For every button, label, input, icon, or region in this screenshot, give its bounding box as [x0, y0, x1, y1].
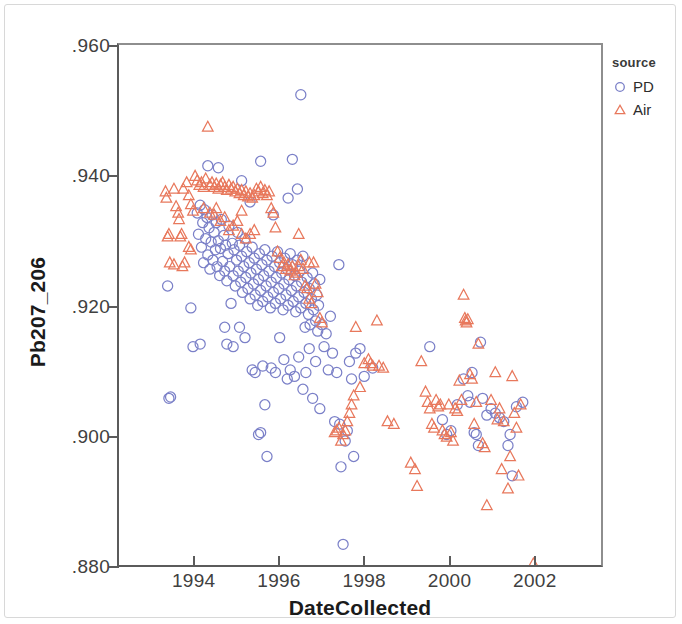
data-point	[437, 415, 447, 425]
series-pd	[163, 90, 528, 550]
legend-entries: PDAir	[612, 78, 678, 118]
data-point	[256, 428, 266, 438]
data-point	[283, 193, 293, 203]
y-tick-label: .940	[72, 165, 110, 187]
triangle-marker-icon	[612, 102, 628, 118]
data-point	[471, 429, 481, 439]
data-point	[507, 371, 518, 381]
data-point	[202, 121, 213, 131]
data-point	[496, 464, 507, 474]
data-point	[294, 352, 304, 362]
y-tick-label: .900	[72, 426, 110, 448]
x-tick-label: 1994	[172, 570, 215, 592]
data-point	[346, 399, 357, 409]
data-point	[420, 386, 431, 396]
data-point	[319, 342, 329, 352]
data-point	[227, 238, 237, 248]
data-point	[236, 205, 247, 215]
data-point	[458, 289, 469, 299]
data-point	[164, 257, 175, 267]
data-point	[203, 161, 213, 171]
data-point	[350, 322, 361, 332]
data-point	[311, 356, 321, 366]
data-point	[247, 365, 257, 375]
data-point	[183, 190, 194, 200]
x-tick-mark	[278, 556, 280, 566]
data-point	[505, 429, 515, 439]
data-point	[412, 480, 423, 490]
data-point	[346, 374, 356, 384]
y-axis-tick-labels: .880.900.920.940.960	[48, 0, 110, 624]
data-point	[336, 462, 346, 472]
data-point	[503, 483, 514, 493]
legend-label: Air	[633, 101, 651, 118]
data-point	[425, 342, 435, 352]
x-tick-label: 2002	[513, 570, 556, 592]
y-axis-title: Pb207_206	[26, 212, 50, 412]
data-point	[199, 258, 209, 268]
x-tick-label: 2000	[428, 570, 471, 592]
data-point	[260, 400, 270, 410]
data-point	[298, 384, 308, 394]
legend-label: PD	[633, 78, 654, 95]
data-point	[256, 156, 266, 166]
data-point	[315, 404, 325, 414]
data-point	[213, 163, 223, 173]
data-point	[275, 333, 285, 343]
plot-area	[117, 43, 603, 567]
data-points-layer	[119, 45, 601, 565]
data-point	[163, 281, 173, 291]
data-point	[349, 451, 359, 461]
data-point	[359, 371, 369, 381]
x-tick-mark	[534, 556, 536, 566]
x-axis-title: DateCollected	[117, 596, 603, 620]
data-point	[304, 344, 314, 354]
data-point	[270, 222, 281, 232]
data-point	[222, 339, 232, 349]
legend-item-pd[interactable]: PD	[612, 78, 678, 95]
x-tick-label: 1998	[343, 570, 386, 592]
data-point	[220, 322, 230, 332]
x-tick-mark	[449, 556, 451, 566]
x-tick-mark	[193, 556, 195, 566]
y-tick-label: .920	[72, 296, 110, 318]
data-point	[301, 367, 311, 377]
data-point	[416, 356, 427, 366]
circle-marker-icon	[612, 79, 628, 95]
data-point	[292, 184, 302, 194]
data-point	[169, 183, 180, 193]
y-tick-mark	[109, 175, 119, 177]
data-point	[193, 229, 203, 239]
data-point	[228, 342, 238, 352]
data-point	[505, 451, 516, 461]
data-point	[308, 393, 318, 403]
y-tick-label: .960	[72, 35, 110, 57]
data-point	[262, 451, 272, 461]
data-point	[338, 539, 348, 549]
data-point	[279, 355, 289, 365]
y-tick-label: .880	[72, 556, 110, 578]
x-tick-label: 1996	[257, 570, 300, 592]
data-point	[296, 90, 306, 100]
scatterplot-figure: .880.900.920.940.960 Pb207_206 199419961…	[0, 0, 682, 624]
data-point	[469, 418, 480, 428]
y-tick-mark	[109, 436, 119, 438]
legend-item-air[interactable]: Air	[612, 101, 678, 118]
series-air	[160, 121, 538, 565]
data-point	[240, 333, 250, 343]
data-point	[226, 298, 236, 308]
data-point	[186, 303, 196, 313]
data-point	[287, 154, 297, 164]
legend: source PDAir	[612, 55, 678, 124]
legend-title: source	[612, 55, 678, 70]
data-point	[325, 311, 335, 321]
data-point	[355, 382, 366, 392]
x-tick-mark	[363, 556, 365, 566]
y-tick-mark	[109, 306, 119, 308]
data-point	[429, 422, 440, 432]
data-point	[482, 500, 493, 510]
data-point	[334, 260, 344, 270]
data-point	[503, 440, 513, 450]
data-point	[293, 229, 304, 239]
data-point	[178, 183, 189, 193]
